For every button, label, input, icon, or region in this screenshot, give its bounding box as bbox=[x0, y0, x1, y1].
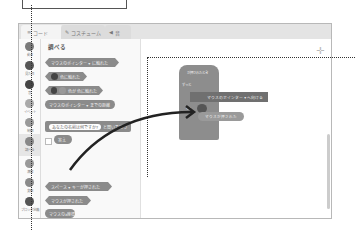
drag-arrow-icon bbox=[0, 0, 355, 235]
